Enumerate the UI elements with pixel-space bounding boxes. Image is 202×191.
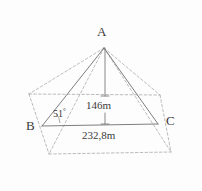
base-edge-back [29, 94, 160, 95]
height-dimension-label: 146m [86, 100, 111, 111]
angle-value: 51 [53, 108, 63, 119]
base-edge-front [49, 152, 171, 154]
edge-A-to-C [104, 48, 158, 124]
edge-A-to-B [42, 48, 104, 126]
height-measure-line [101, 48, 109, 124]
edge-B-to-C [42, 124, 158, 126]
pyramid-figure: A B C 146m 232,8m 51° [0, 0, 202, 191]
vertex-label-B: B [26, 119, 35, 132]
edge-apex-to-back-left [29, 48, 104, 94]
degree-symbol: ° [63, 107, 66, 115]
vertex-label-A: A [97, 25, 106, 38]
angle-dimension-label: 51° [53, 108, 66, 119]
base-dimension-label: 232,8m [82, 130, 115, 141]
vertex-label-C: C [166, 114, 175, 127]
